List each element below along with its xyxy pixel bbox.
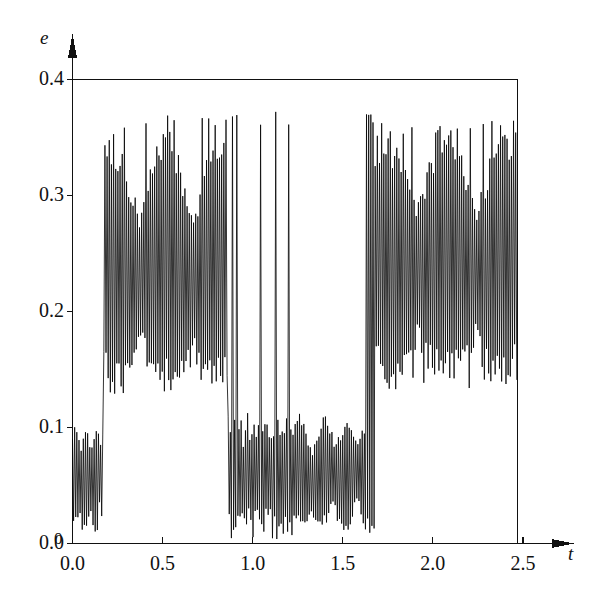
x-tick-label: 1.5 bbox=[313, 552, 373, 575]
x-axis-label: t bbox=[568, 543, 573, 565]
chart-figure: e t 0.00.10.20.30.4 0.00.51.01.52.02.5 0 bbox=[0, 0, 601, 594]
y-tick-label: 0.2 bbox=[8, 299, 64, 322]
x-tick-label: 2.0 bbox=[403, 552, 463, 575]
y-tick-label: 0.3 bbox=[8, 183, 64, 206]
x-tick-label: 1.0 bbox=[223, 552, 283, 575]
data-series-line bbox=[73, 112, 517, 539]
y-axis-label: e bbox=[40, 27, 48, 49]
x-tick-label: 2.5 bbox=[493, 552, 553, 575]
origin-tick-label: 0 bbox=[54, 529, 63, 549]
x-tick-label: 0.5 bbox=[133, 552, 193, 575]
y-tick-label: 0.4 bbox=[8, 67, 64, 90]
x-tick-label: 0.0 bbox=[43, 552, 103, 575]
plot-canvas bbox=[0, 0, 601, 594]
y-tick-label: 0.1 bbox=[8, 415, 64, 438]
